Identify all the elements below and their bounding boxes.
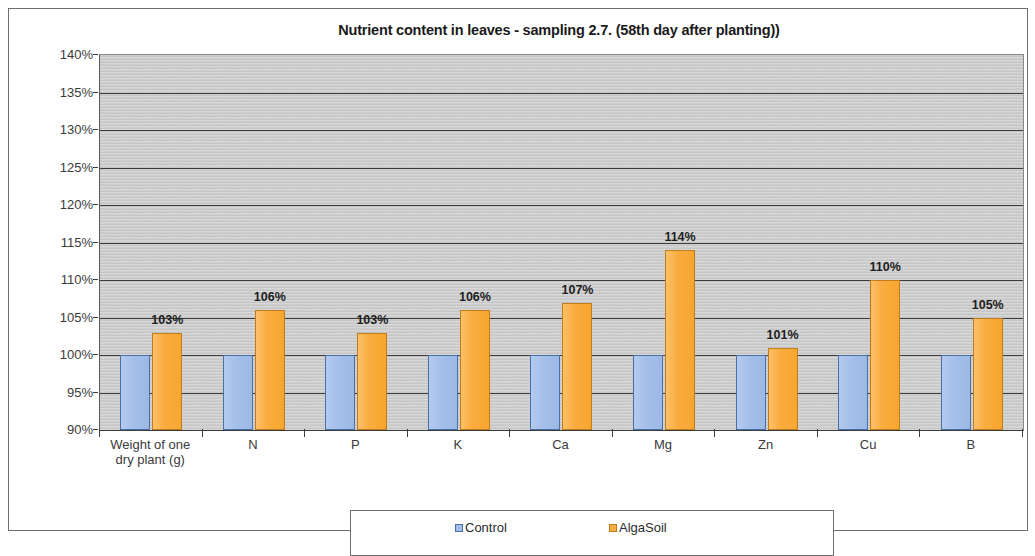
bar-control[interactable] [120, 355, 150, 430]
x-axis-tick-label: N [198, 437, 308, 452]
x-axis-tick-label-line: Weight of one [95, 437, 205, 452]
x-axis-ticks [99, 429, 1023, 437]
x-axis-tick-label-line: Zn [711, 437, 821, 452]
y-axis-tick-mark [93, 354, 98, 355]
y-axis-tick-label: 100% [37, 347, 93, 362]
x-axis-tick-mark [1022, 429, 1023, 437]
bar-value-label: 105% [972, 298, 1004, 312]
bar-control[interactable] [428, 355, 458, 430]
bar-group [408, 55, 511, 430]
y-axis-tick-label: 140% [37, 47, 93, 62]
y-axis-tick-mark [93, 167, 98, 168]
bar-group [100, 55, 203, 430]
bar-value-label: 103% [356, 313, 388, 327]
bar-algasoil[interactable] [973, 318, 1003, 431]
x-axis-tick-label-line: B [916, 437, 1026, 452]
x-axis-tick-label-line: Ca [506, 437, 616, 452]
y-axis-tick-mark [93, 317, 98, 318]
bar-value-label: 107% [562, 283, 594, 297]
y-axis-tick-label: 125% [37, 159, 93, 174]
bar-group [510, 55, 613, 430]
x-axis-tick-label: Cu [813, 437, 923, 452]
y-axis-tick-label: 130% [37, 122, 93, 137]
y-axis-tick-mark [93, 392, 98, 393]
bar-value-label: 101% [767, 328, 799, 342]
y-axis-tick-mark [93, 129, 98, 130]
y-axis-tick-mark [93, 92, 98, 93]
x-axis: Weight of onedry plant (g)NPKCaMgZnCuB [99, 437, 1023, 485]
bar-group [818, 55, 921, 430]
legend-entry-control[interactable]: Control [455, 520, 507, 535]
x-axis-tick-label-line: dry plant (g) [95, 452, 205, 467]
bar-algasoil[interactable] [870, 280, 900, 430]
x-axis-tick-mark [304, 429, 305, 437]
x-axis-tick-label-line: Mg [608, 437, 718, 452]
bar-control[interactable] [530, 355, 560, 430]
bar-value-label: 114% [664, 230, 695, 244]
x-axis-tick-label: K [403, 437, 513, 452]
bar-algasoil[interactable] [460, 310, 490, 430]
bar-algasoil[interactable] [255, 310, 285, 430]
y-axis-tick-mark [93, 242, 98, 243]
bar-algasoil[interactable] [768, 348, 798, 431]
bar-value-label: 106% [254, 290, 286, 304]
y-axis-tick-mark [93, 279, 98, 280]
x-axis-tick-mark [817, 429, 818, 437]
x-axis-tick-label: B [916, 437, 1026, 452]
y-axis-tick-label: 110% [37, 272, 93, 287]
bar-algasoil[interactable] [357, 333, 387, 431]
bar-group [203, 55, 306, 430]
chart-legend: ControlAlgaSoil [350, 510, 834, 556]
x-axis-tick-label-line: K [403, 437, 513, 452]
y-axis: 140%135%130%125%120%115%110%105%100%95%9… [33, 54, 93, 429]
bar-control[interactable] [838, 355, 868, 430]
bar-algasoil[interactable] [562, 303, 592, 431]
y-axis-tick-label: 120% [37, 197, 93, 212]
legend-swatch-icon [609, 524, 617, 532]
legend-entry-algasoil[interactable]: AlgaSoil [609, 520, 667, 535]
y-axis-tick-label: 90% [37, 422, 93, 437]
x-axis-tick-label: P [300, 437, 410, 452]
legend-label: AlgaSoil [619, 520, 667, 535]
legend-swatch-icon [455, 524, 463, 532]
x-axis-tick-mark [612, 429, 613, 437]
x-axis-tick-label-line: N [198, 437, 308, 452]
x-axis-tick-label-line: P [300, 437, 410, 452]
bar-value-label: 103% [151, 313, 183, 327]
x-axis-tick-label-line: Cu [813, 437, 923, 452]
bar-control[interactable] [223, 355, 253, 430]
bar-value-label: 106% [459, 290, 491, 304]
legend-label: Control [465, 520, 507, 535]
plot-area: 103%106%103%106%107%114%101%110%105% [99, 54, 1024, 431]
bar-control[interactable] [325, 355, 355, 430]
y-axis-tick-mark [93, 429, 98, 430]
bar-control[interactable] [633, 355, 663, 430]
bar-group [920, 55, 1023, 430]
x-axis-tick-mark [99, 429, 100, 437]
chart-title: Nutrient content in leaves - sampling 2.… [99, 22, 1019, 38]
x-axis-tick-mark [202, 429, 203, 437]
bar-group [305, 55, 408, 430]
chart-frame: Nutrient content in leaves - sampling 2.… [8, 8, 1028, 531]
x-axis-tick-mark [407, 429, 408, 437]
y-axis-tick-mark [93, 54, 98, 55]
x-axis-tick-label: Weight of onedry plant (g) [95, 437, 205, 467]
x-axis-tick-label: Mg [608, 437, 718, 452]
y-axis-tick-label: 105% [37, 309, 93, 324]
bar-control[interactable] [941, 355, 971, 430]
x-axis-tick-mark [714, 429, 715, 437]
y-axis-tick-label: 135% [37, 84, 93, 99]
bar-value-label: 110% [870, 260, 901, 274]
bar-control[interactable] [736, 355, 766, 430]
bar-group [715, 55, 818, 430]
x-axis-tick-mark [509, 429, 510, 437]
y-axis-tick-label: 95% [37, 384, 93, 399]
y-axis-tick-mark [93, 204, 98, 205]
bar-algasoil[interactable] [152, 333, 182, 431]
x-axis-tick-mark [919, 429, 920, 437]
bar-algasoil[interactable] [665, 250, 695, 430]
x-axis-tick-label: Ca [506, 437, 616, 452]
y-axis-tick-label: 115% [37, 234, 93, 249]
x-axis-tick-label: Zn [711, 437, 821, 452]
